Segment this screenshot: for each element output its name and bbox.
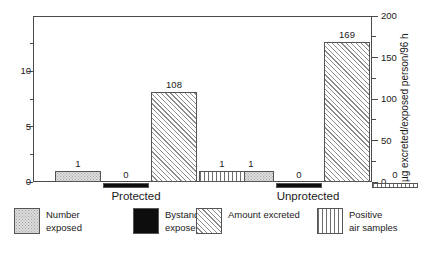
bar-zero-marker: [103, 183, 149, 188]
axis-tick: [372, 36, 376, 37]
left-axis-tick-label: 10: [20, 66, 31, 76]
bar: [55, 171, 101, 182]
bar-zero-marker: [372, 183, 418, 188]
left-axis-tick-label: 0: [26, 177, 31, 187]
legend-label: Positiveair samples: [349, 208, 398, 234]
bar: [324, 42, 370, 182]
legend-label-line2: exposed: [46, 221, 82, 234]
right-axis-title: µg excreted/exposed person/96 h: [398, 16, 412, 182]
bar-value-label: 1: [199, 159, 245, 169]
legend-label: Amount excreted: [228, 208, 300, 221]
x-axis-group-label: Protected: [66, 190, 206, 202]
bar-value-label: 0: [103, 170, 149, 180]
right-axis-tick-label: 150: [381, 53, 397, 63]
chart-legend: NumberexposedBystandersexposedAmount exc…: [0, 206, 425, 253]
axis-tick: [372, 78, 376, 79]
axis-tick: [30, 154, 34, 155]
axis-tick: [372, 16, 378, 17]
bar-value-label: 169: [324, 30, 370, 40]
legend-swatch: [133, 208, 159, 234]
axis-tick: [372, 140, 378, 141]
legend-label-line1: Positive: [349, 208, 398, 221]
legend-label-line1: Amount excreted: [228, 208, 300, 221]
bar: [151, 92, 197, 182]
bar: [199, 171, 245, 182]
axis-tick: [372, 99, 378, 100]
left-axis-tick-label: 5: [26, 122, 31, 132]
legend-label: Numberexposed: [46, 208, 82, 234]
bar-value-label: 108: [151, 80, 197, 90]
plot-area: [33, 16, 372, 182]
legend-swatch: [196, 208, 222, 234]
legend-swatch: [14, 208, 40, 234]
axis-tick: [30, 43, 34, 44]
axis-tick: [372, 161, 376, 162]
legend-label-line2: air samples: [349, 221, 398, 234]
bar-zero-marker: [276, 183, 322, 188]
right-axis-tick-label: 200: [381, 11, 397, 21]
right-axis-tick-label: 50: [381, 136, 392, 146]
axis-tick: [372, 57, 378, 58]
axis-tick: [372, 119, 376, 120]
right-axis-tick-label: 100: [381, 94, 397, 104]
bar-value-label: 1: [55, 159, 101, 169]
x-axis-group-label: Unprotected: [238, 190, 378, 202]
bar-chart: 0510050100150200 110010816910 ProtectedU…: [0, 0, 425, 253]
bar-value-label: 0: [276, 170, 322, 180]
legend-label-line1: Number: [46, 208, 82, 221]
legend-swatch: [317, 208, 343, 234]
axis-tick: [30, 99, 34, 100]
